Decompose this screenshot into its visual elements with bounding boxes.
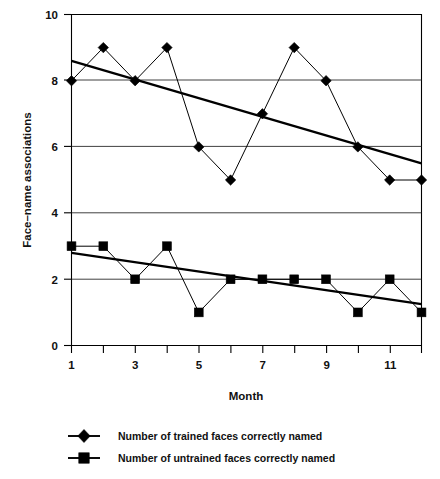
y-tick-label-0: 0 xyxy=(52,340,58,352)
square-marker xyxy=(194,308,203,317)
chart-background xyxy=(0,0,440,479)
square-marker xyxy=(131,275,140,284)
x-tick-label-5: 5 xyxy=(196,359,203,371)
square-marker-icon xyxy=(79,453,89,463)
x-tick-label-11: 11 xyxy=(384,359,397,371)
face-name-associations-line-chart: 10 8 6 4 2 0 Face–name associations 1 xyxy=(0,0,440,479)
legend-label-untrained: Number of untrained faces correctly name… xyxy=(118,452,335,464)
x-tick-label-3: 3 xyxy=(132,359,138,371)
x-axis-title: Month xyxy=(229,390,263,402)
square-marker xyxy=(67,242,76,251)
square-marker xyxy=(322,275,331,284)
square-marker xyxy=(417,308,426,317)
y-tick-label-8: 8 xyxy=(52,75,59,87)
square-marker xyxy=(226,275,235,284)
x-tick-label-1: 1 xyxy=(68,359,75,371)
y-tick-label-6: 6 xyxy=(52,141,58,153)
x-tick-label-9: 9 xyxy=(323,359,329,371)
square-marker xyxy=(385,275,394,284)
y-tick-label-2: 2 xyxy=(52,274,58,286)
y-tick-label-4: 4 xyxy=(52,207,59,219)
square-marker xyxy=(290,275,299,284)
y-axis-title: Face–name associations xyxy=(21,112,33,248)
square-marker xyxy=(99,242,108,251)
x-tick-label-7: 7 xyxy=(260,359,266,371)
legend-label-trained: Number of trained faces correctly named xyxy=(118,430,322,442)
y-tick-label-10: 10 xyxy=(45,9,58,21)
chart-figure: 10 8 6 4 2 0 Face–name associations 1 xyxy=(0,0,440,479)
square-marker xyxy=(353,308,362,317)
square-marker xyxy=(258,275,267,284)
square-marker xyxy=(163,242,172,251)
